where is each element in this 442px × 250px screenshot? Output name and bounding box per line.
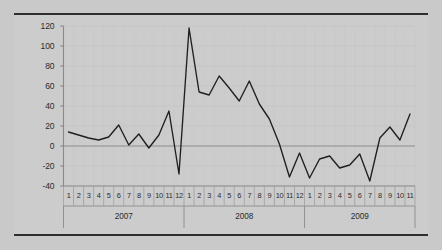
x-axis-month-label: 8 xyxy=(375,192,385,199)
x-axis-month-label: 7 xyxy=(365,192,375,199)
y-axis-tick-label: 60 xyxy=(33,81,55,91)
x-axis-month-label: 9 xyxy=(144,192,154,199)
x-axis-month-label: 1 xyxy=(64,192,74,199)
y-axis-tick-label: 20 xyxy=(33,121,55,131)
x-axis-month-label: 1 xyxy=(305,192,315,199)
x-axis-month-label: 10 xyxy=(154,192,164,199)
y-axis-tick-label: 80 xyxy=(33,61,55,71)
y-axis-tick-label: -40 xyxy=(33,181,55,191)
x-axis-month-label: 10 xyxy=(274,192,284,199)
x-axis-month-label: 2 xyxy=(74,192,84,199)
x-axis-month-label: 10 xyxy=(395,192,405,199)
x-axis-month-label: 4 xyxy=(214,192,224,199)
x-axis-month-label: 5 xyxy=(104,192,114,199)
x-axis-month-label: 6 xyxy=(114,192,124,199)
y-axis-tick-label: 120 xyxy=(33,21,55,31)
x-axis-month-label: 5 xyxy=(345,192,355,199)
x-axis-month-label: 3 xyxy=(84,192,94,199)
x-axis-month-label: 2 xyxy=(315,192,325,199)
x-axis-month-label: 3 xyxy=(204,192,214,199)
data-series-line xyxy=(69,28,410,181)
y-axis-tick-label: 0 xyxy=(33,141,55,151)
x-axis-month-label: 9 xyxy=(264,192,274,199)
x-axis-month-label: 5 xyxy=(224,192,234,199)
x-axis-month-label: 3 xyxy=(325,192,335,199)
x-axis-year-label: 2009 xyxy=(305,213,415,221)
x-axis-month-label: 4 xyxy=(335,192,345,199)
x-axis-month-label: 12 xyxy=(294,192,304,199)
x-axis-month-label: 2 xyxy=(194,192,204,199)
x-axis-month-label: 8 xyxy=(134,192,144,199)
x-axis-month-label: 7 xyxy=(124,192,134,199)
x-axis-month-label: 7 xyxy=(244,192,254,199)
x-axis-month-label: 11 xyxy=(164,192,174,199)
y-axis-tick-label: -20 xyxy=(33,161,55,171)
x-axis-month-label: 6 xyxy=(355,192,365,199)
chart-figure: -40-20020406080100120 123456789101112123… xyxy=(0,0,442,250)
y-axis-tick-label: 40 xyxy=(33,101,55,111)
x-axis-month-label: 9 xyxy=(385,192,395,199)
x-axis-month-label: 1 xyxy=(184,192,194,199)
x-axis-year-label: 2007 xyxy=(64,213,185,221)
x-axis-month-label: 8 xyxy=(254,192,264,199)
y-axis-tick-label: 100 xyxy=(33,41,55,51)
x-axis-month-label: 6 xyxy=(234,192,244,199)
x-axis-month-label: 11 xyxy=(405,192,415,199)
x-axis-year-label: 2008 xyxy=(184,213,305,221)
x-axis-month-label: 12 xyxy=(174,192,184,199)
x-axis-month-label: 11 xyxy=(284,192,294,199)
x-axis-month-label: 4 xyxy=(94,192,104,199)
